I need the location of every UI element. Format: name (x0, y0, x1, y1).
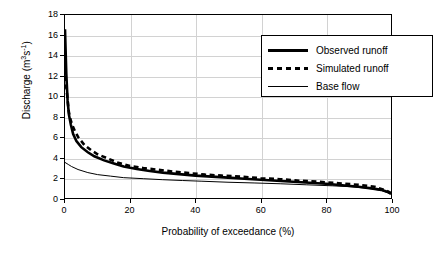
x-tick-mark (130, 199, 131, 203)
x-tick-mark (195, 199, 196, 203)
y-tick-label: 10 (2, 91, 58, 101)
y-tick-label: 6 (2, 132, 58, 142)
legend-label-base-flow: Base flow (316, 81, 359, 92)
x-tick-mark (392, 199, 393, 203)
y-tick-label: 12 (2, 71, 58, 81)
legend-key-base-flow-icon (268, 81, 308, 91)
x-tick-mark (64, 199, 65, 203)
x-tick-label: 80 (311, 205, 341, 215)
x-tick-label: 0 (49, 205, 79, 215)
legend-label-observed-runoff: Observed runoff (316, 45, 388, 56)
y-tick-label: 8 (2, 112, 58, 122)
x-tick-label: 60 (246, 205, 276, 215)
x-axis-title: Probability of exceedance (%) (64, 226, 392, 237)
x-tick-mark (261, 199, 262, 203)
x-tick-label: 100 (377, 205, 407, 215)
legend: Observed runoff Simulated runoff Base fl… (261, 35, 433, 97)
y-tick-label: 18 (2, 9, 58, 19)
legend-key-simulated-runoff-icon (268, 63, 308, 73)
x-tick-label: 20 (115, 205, 145, 215)
legend-label-simulated-runoff: Simulated runoff (316, 63, 389, 74)
legend-item-simulated-runoff: Simulated runoff (268, 59, 426, 77)
x-tick-mark (326, 199, 327, 203)
y-tick-label: 16 (2, 30, 58, 40)
legend-key-observed-runoff-icon (268, 45, 308, 55)
y-tick-label: 4 (2, 153, 58, 163)
y-tick-label: 2 (2, 173, 58, 183)
y-tick-label: 0 (2, 194, 58, 204)
legend-item-base-flow: Base flow (268, 77, 426, 95)
y-tick-label: 14 (2, 50, 58, 60)
plot-area: Observed runoff Simulated runoff Base fl… (64, 14, 392, 199)
x-tick-label: 40 (180, 205, 210, 215)
legend-item-observed-runoff: Observed runoff (268, 41, 426, 59)
